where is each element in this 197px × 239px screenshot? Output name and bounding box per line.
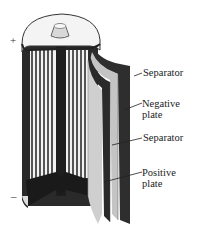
positive-terminal-symbol: +: [10, 34, 16, 46]
label-separator-bottom: Separator: [143, 132, 183, 143]
right-plate-stripes: [66, 50, 88, 178]
peeled-layers: [88, 48, 130, 224]
battery-diagram: + – Separator Negative plate Separator P…: [0, 0, 197, 239]
left-plate-stripes: [30, 50, 56, 180]
label-positive-plate: Positive plate: [142, 167, 176, 189]
label-negative-plate: Negative plate: [142, 98, 180, 120]
negative-terminal-symbol: –: [11, 190, 17, 202]
label-separator-top: Separator: [143, 67, 183, 78]
